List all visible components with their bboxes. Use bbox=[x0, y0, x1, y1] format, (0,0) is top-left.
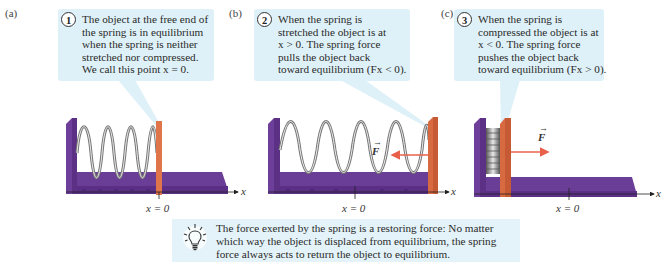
lightbulb-icon bbox=[182, 222, 208, 252]
origin-label-c: x = 0 bbox=[556, 202, 579, 214]
apparatus-c bbox=[474, 118, 654, 200]
note-line-3: force always acts to return the object t… bbox=[216, 248, 514, 261]
origin-label-a: x = 0 bbox=[146, 202, 169, 214]
axis-label-c: x bbox=[656, 187, 661, 199]
origin-label-b: x = 0 bbox=[342, 202, 365, 214]
axis-label-a: x bbox=[241, 185, 246, 197]
note-line-1: The force exerted by the spring is a res… bbox=[216, 222, 514, 235]
force-label-b: → F bbox=[372, 145, 379, 157]
axis-label-b: x bbox=[451, 185, 456, 197]
apparatus-b bbox=[268, 117, 449, 199]
restoring-force-note: The force exerted by the spring is a res… bbox=[172, 219, 520, 262]
apparatus-a bbox=[66, 118, 238, 199]
force-label-c: → F bbox=[538, 131, 545, 143]
note-line-2: which way the object is displaced from e… bbox=[216, 235, 514, 248]
